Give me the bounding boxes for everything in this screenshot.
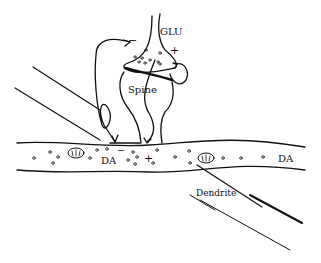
label-plus-synapse: + — [144, 152, 153, 165]
label-minus-synapse: − — [117, 145, 125, 156]
synapse-diagram: GLU Spine DA DA Dendrite − + − + — [0, 0, 321, 263]
label-da-left: DA — [101, 155, 117, 166]
label-da-right: DA — [278, 153, 294, 164]
glu-terminal — [124, 14, 177, 80]
label-spine: Spine — [128, 84, 157, 95]
label-plus-top: + — [170, 44, 179, 57]
da-axon — [17, 140, 305, 172]
label-minus-top: − — [128, 34, 137, 47]
label-glu: GLU — [160, 26, 183, 37]
label-dendrite: Dendrite — [196, 188, 236, 198]
